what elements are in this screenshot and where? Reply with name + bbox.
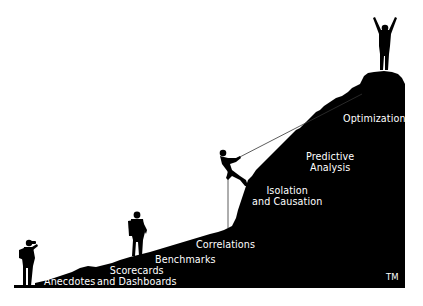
stage-label-optimization: Optimization — [343, 113, 406, 124]
trademark-mark: TM — [386, 272, 399, 283]
stage-label-scorecards-and-dashboards: Scorecards and Dashboards — [97, 265, 177, 287]
celebrating-person-icon — [373, 17, 397, 70]
hiker-with-backpack-icon — [128, 212, 147, 256]
stage-label-predictive-analysis: Predictive Analysis — [306, 151, 354, 173]
mountain-silhouette — [35, 71, 405, 288]
stage-label-correlations: Correlations — [196, 239, 255, 250]
stage-label-anecdotes: Anecdotes — [44, 276, 95, 287]
stage-label-isolation-and-causation: Isolation and Causation — [252, 185, 322, 207]
stage-label-benchmarks: Benchmarks — [155, 254, 216, 265]
person-with-binoculars-icon — [19, 240, 38, 286]
